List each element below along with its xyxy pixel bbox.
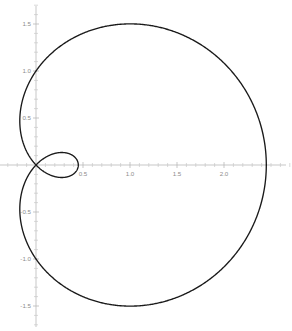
x-axis-tick-label: 2.0 xyxy=(220,170,229,177)
y-axis-tick-label: 0.5 xyxy=(22,114,31,121)
x-axis-tick-label: 1.5 xyxy=(173,170,182,177)
polar-plot-figure: 0.51.01.52.0 1.51.00.5-0.5-1.0-1.5 xyxy=(0,0,292,331)
x-axis-tick-labels: 0.51.01.52.0 xyxy=(79,170,229,177)
x-axis-tick-label: 0.5 xyxy=(79,170,88,177)
plot-canvas: 0.51.01.52.0 1.51.00.5-0.5-1.0-1.5 xyxy=(0,0,292,331)
x-axis-tick-label: 1.0 xyxy=(126,170,135,177)
y-axis-tick-label: -0.5 xyxy=(20,208,31,215)
y-axis-tick-label: -1.5 xyxy=(20,302,31,309)
y-axis-tick-label: 1.5 xyxy=(22,20,31,27)
y-axis-tick-label: 1.0 xyxy=(22,67,31,74)
y-axis-tick-label: -1.0 xyxy=(20,255,31,262)
